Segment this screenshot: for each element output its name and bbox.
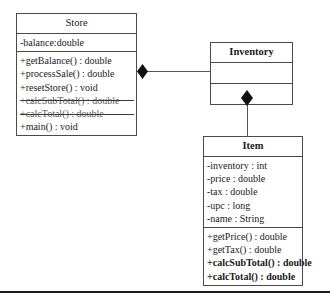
uml-class-diagram-canvas: Store -balance:double +getBalance() : do…	[0, 0, 330, 300]
attribute-row: -tax : double	[207, 185, 302, 198]
attribute-row: -upc : long	[207, 199, 302, 212]
method-row: +calcTotal() : double	[20, 107, 136, 120]
class-name-inventory: Inventory	[211, 43, 292, 63]
methods-compartment-item: +getPrice() : double +getTax() : double …	[204, 228, 302, 285]
methods-compartment-inventory	[211, 84, 292, 104]
method-row: +calcSubTotal() : double	[207, 256, 302, 269]
method-row: +getTax() : double	[207, 243, 302, 256]
method-row: +resetStore() : void	[20, 81, 136, 94]
method-row: +main() : void	[20, 120, 136, 133]
uml-class-inventory[interactable]: Inventory	[210, 42, 293, 105]
method-row: +processSale() : double	[20, 67, 136, 80]
uml-class-item[interactable]: Item -inventory : int -price : double -t…	[203, 136, 303, 286]
method-row: +getPrice() : double	[207, 230, 302, 243]
attribute-row: -balance:double	[20, 36, 136, 49]
attribute-row: -name : String	[207, 212, 302, 225]
attributes-compartment-item: -inventory : int -price : double -tax : …	[204, 157, 302, 228]
attributes-compartment-inventory	[211, 63, 292, 84]
method-row: +calcSubTotal() : double	[20, 94, 136, 107]
attributes-compartment-store: -balance:double	[17, 34, 136, 52]
bottom-divider	[0, 291, 330, 293]
composition-diamond-store	[137, 64, 148, 79]
method-row: +getBalance() : double	[20, 54, 136, 67]
methods-compartment-store: +getBalance() : double +processSale() : …	[17, 52, 136, 135]
uml-class-store[interactable]: Store -balance:double +getBalance() : do…	[16, 13, 137, 136]
attribute-row-empty	[214, 65, 292, 78]
method-row-empty	[214, 86, 292, 99]
class-name-store: Store	[17, 14, 136, 34]
attribute-row: -price : double	[207, 172, 302, 185]
attribute-row: -inventory : int	[207, 159, 302, 172]
class-name-item: Item	[204, 137, 302, 157]
association-line-store-inventory	[137, 71, 211, 72]
method-row: +calcTotal() : double	[207, 270, 302, 283]
